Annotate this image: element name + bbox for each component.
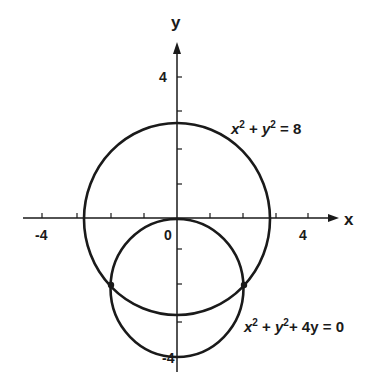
y-axis: [173, 42, 182, 372]
x-axis-arrow-icon: [328, 214, 339, 222]
y-axis-label: y: [171, 13, 181, 32]
x-axis: [23, 213, 339, 222]
x-tick-label-neg4: -4: [35, 227, 48, 243]
y-tick-label-4: 4: [159, 69, 167, 85]
y-axis-arrow-icon: [173, 42, 181, 54]
y-tick-label-neg4: -4: [162, 350, 175, 366]
origin-label: 0: [164, 227, 172, 243]
intersection-point: [241, 282, 247, 288]
diagram: y x -4 4 0 4 -4 x2 + y2 = 8 x2 + y2+ 4y …: [0, 0, 372, 372]
x-tick-label-4: 4: [299, 227, 307, 243]
intersection-point: [108, 282, 114, 288]
small-circle-equation: x2 + y2+ 4y = 0: [243, 317, 344, 335]
x-axis-label: x: [344, 210, 354, 229]
large-circle-equation: x2 + y2 = 8: [230, 119, 301, 137]
